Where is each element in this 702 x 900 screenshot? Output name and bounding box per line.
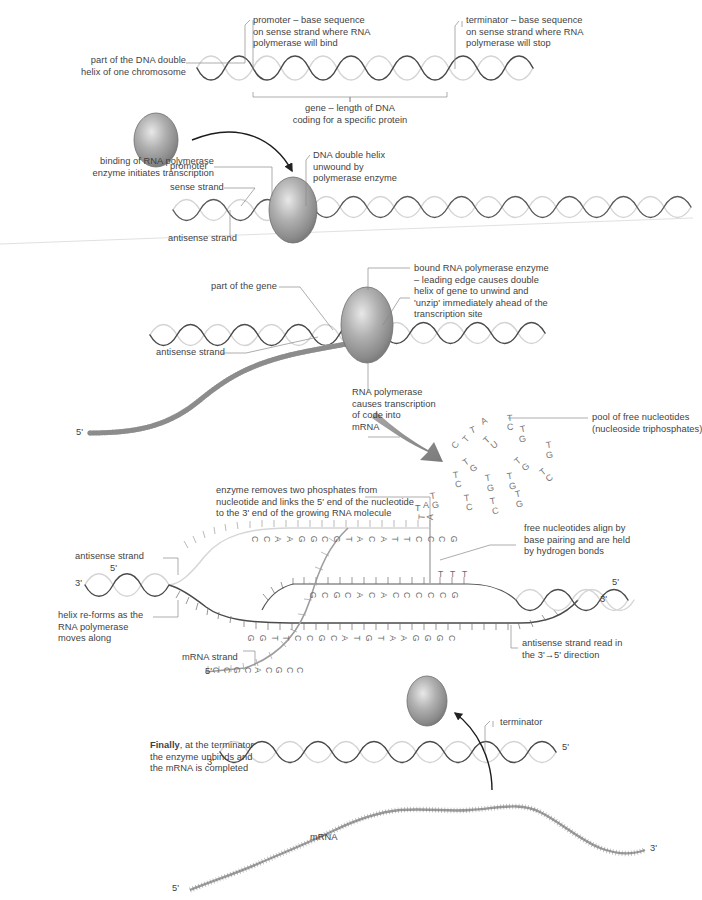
label-promoter-stage2: promoter bbox=[170, 161, 208, 173]
template-base: T bbox=[269, 635, 279, 640]
template-base: T bbox=[375, 635, 385, 640]
label-antisense-strand-stage3: antisense strand bbox=[156, 347, 225, 359]
sense-base: A bbox=[379, 536, 389, 542]
label-antisense-strand-stage4: antisense strand bbox=[75, 551, 144, 563]
template-base: C bbox=[305, 635, 315, 641]
antisense-base: C bbox=[391, 592, 401, 598]
template-base: T bbox=[281, 635, 291, 640]
sense-base: G bbox=[309, 536, 319, 543]
nucleotide-g: G bbox=[545, 449, 554, 460]
template-base: A bbox=[387, 635, 397, 641]
stage5-leaders bbox=[485, 721, 493, 752]
prime-3-right-stage4: 3' bbox=[600, 594, 607, 604]
sense-base: T bbox=[343, 536, 353, 541]
sense-base: G bbox=[297, 536, 307, 543]
label-terminator-stage5: terminator bbox=[500, 717, 542, 729]
template-base: A bbox=[340, 635, 350, 641]
label-mrna-strand: mRNA strand bbox=[182, 652, 238, 664]
mrna-base: C bbox=[295, 667, 305, 673]
prime-5-right-stage4: 5' bbox=[612, 577, 619, 587]
antisense-base: C bbox=[403, 592, 413, 598]
prime-5-stage3: 5' bbox=[76, 427, 83, 437]
template-base: T bbox=[352, 635, 362, 640]
sense-base: A bbox=[273, 536, 283, 542]
label-read-direction: antisense strand read in the 3'→5' direc… bbox=[522, 638, 622, 661]
label-mrna-final: mRNA bbox=[310, 832, 338, 844]
antisense-base: C bbox=[426, 592, 436, 598]
label-free-nucleotides: free nucleotides align by base pairing a… bbox=[524, 523, 630, 558]
antisense-base: C bbox=[344, 592, 354, 598]
nucleotide-c: C bbox=[465, 502, 473, 513]
sense-base: C bbox=[367, 536, 377, 542]
mrna-base: A bbox=[253, 667, 263, 673]
nucleotide-t: T bbox=[519, 424, 526, 435]
template-base: G bbox=[435, 635, 445, 642]
antisense-base: G bbox=[450, 592, 460, 599]
mrna-base: C bbox=[264, 667, 274, 673]
antisense-base: C bbox=[414, 592, 424, 598]
template-base: G bbox=[317, 635, 327, 642]
label-bound-enzyme: bound RNA polymerase enzyme – leading ed… bbox=[414, 263, 549, 321]
nucleotide-t: T bbox=[545, 440, 552, 451]
template-base: C bbox=[447, 635, 457, 641]
nucleotide-t: T bbox=[484, 473, 491, 484]
antisense-base: C bbox=[438, 592, 448, 598]
nucleotide-g: G bbox=[431, 499, 440, 510]
antisense-base: C bbox=[320, 592, 330, 598]
template-base: A bbox=[399, 635, 409, 641]
label-helix-reforms: helix re-forms as the RNA polymerase mov… bbox=[58, 610, 143, 645]
nucleotide-g: G bbox=[486, 482, 495, 493]
label-transcription: RNA polymerase causes transcription of c… bbox=[352, 387, 436, 433]
prime-5-dna-stage5: 5' bbox=[562, 742, 569, 752]
free-nucleotide-t: T bbox=[450, 569, 455, 579]
loose-base-a: A bbox=[423, 500, 429, 510]
template-base: G bbox=[412, 635, 422, 642]
sense-base: C bbox=[437, 536, 447, 542]
final-mrna-strand bbox=[190, 806, 645, 890]
antisense-base: G bbox=[332, 592, 342, 599]
nucleotide-c: C bbox=[506, 422, 514, 433]
rna-polymerase-released bbox=[407, 676, 447, 726]
nucleotide-t: T bbox=[463, 493, 470, 504]
mrna-base: G bbox=[274, 667, 284, 674]
sense-base: A bbox=[285, 536, 295, 542]
antisense-base: G bbox=[308, 592, 318, 599]
prime-5-left-stage4: 5' bbox=[110, 563, 117, 573]
section-separator bbox=[0, 218, 693, 244]
rna-polymerase-bound-stage2 bbox=[269, 177, 317, 243]
stage1-helix bbox=[197, 56, 533, 80]
sense-base: C bbox=[426, 536, 436, 542]
label-enzyme-removes: enzyme removes two phosphates from nucle… bbox=[216, 485, 414, 520]
antisense-base: C bbox=[367, 592, 377, 598]
free-nucleotide-t: T bbox=[462, 569, 467, 579]
nucleotide-t: T bbox=[417, 514, 427, 520]
stage2-helix bbox=[173, 197, 691, 221]
sense-base: G bbox=[449, 536, 459, 543]
nucleotide-c: C bbox=[454, 479, 462, 490]
nucleotide-t: T bbox=[506, 471, 513, 482]
antisense-base: A bbox=[379, 592, 389, 598]
prime-5-mrna-final: 5' bbox=[172, 883, 179, 893]
loose-base-t: T bbox=[415, 503, 421, 513]
mrna-base: C bbox=[222, 667, 232, 673]
nucleotide-t: T bbox=[429, 491, 436, 502]
template-base: G bbox=[258, 635, 268, 642]
nucleotide-t: T bbox=[452, 470, 459, 481]
mrna-base: G bbox=[232, 667, 242, 674]
sense-base: C bbox=[414, 536, 424, 542]
sense-base: C bbox=[262, 536, 272, 542]
prime-3-dna-stage5: 3' bbox=[207, 757, 214, 767]
mrna-base: C bbox=[211, 667, 221, 673]
template-base: C bbox=[329, 635, 339, 641]
label-unwound: DNA double helix unwound by polymerase e… bbox=[313, 150, 397, 185]
free-nucleotide-t: T bbox=[438, 569, 443, 579]
label-chromosome: part of the DNA double helix of one chro… bbox=[50, 55, 186, 78]
nucleotide-t: T bbox=[514, 489, 521, 500]
sense-base: G bbox=[332, 536, 342, 543]
sense-base: T bbox=[402, 536, 412, 541]
antisense-base: A bbox=[355, 592, 365, 598]
label-sense-strand: sense strand bbox=[170, 182, 224, 194]
sense-base: A bbox=[355, 536, 365, 542]
